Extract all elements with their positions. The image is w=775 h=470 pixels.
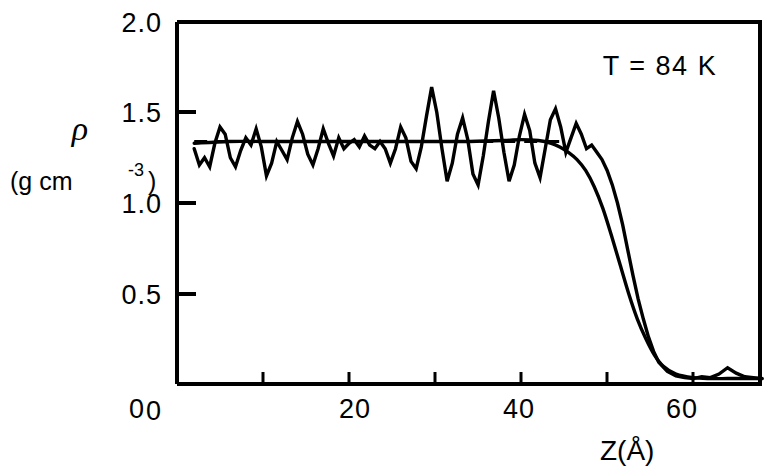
- y-axis-units-exponent: -3: [128, 160, 144, 180]
- y-tick-label-0: 0: [146, 396, 162, 426]
- y-axis-ticks: [177, 22, 199, 384]
- y-tick-label-1-5: 1.5: [121, 98, 162, 128]
- oscillatory-density-profile-line: [194, 87, 762, 378]
- y-tick-label-2-0: 2.0: [121, 8, 162, 38]
- x-tick-label-60: 60: [666, 394, 698, 424]
- y-axis-units-close: ): [148, 167, 156, 195]
- x-axis-ticks: [177, 366, 693, 384]
- x-axis-title: Z(Å): [600, 435, 654, 466]
- x-tick-label-0: 0: [129, 394, 145, 424]
- data-layer: [194, 87, 762, 378]
- temperature-annotation: T = 84 K: [603, 51, 717, 81]
- x-tick-label-20: 20: [339, 394, 371, 424]
- x-tick-label-40: 40: [503, 394, 535, 424]
- x-axis-title-group: Z(Å): [600, 435, 654, 466]
- density-profile-figure: 2.0 1.5 1.0 0.5 0 0 20 40 60 ρ (g cm -3 …: [0, 0, 775, 470]
- y-tick-label-0-5: 0.5: [121, 280, 162, 310]
- y-axis-units-open: (g cm: [10, 167, 73, 195]
- plot-canvas: 2.0 1.5 1.0 0.5 0 0 20 40 60 ρ (g cm -3 …: [0, 0, 775, 470]
- y-axis-symbol-rho: ρ: [71, 110, 88, 147]
